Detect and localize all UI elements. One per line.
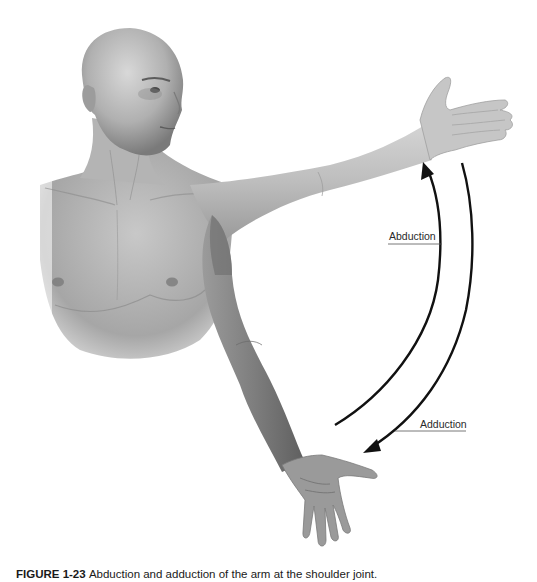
- figure-number: FIGURE 1-23: [16, 568, 86, 580]
- figure-caption-text: Abduction and adduction of the arm at th…: [89, 568, 377, 580]
- abduction-label: Abduction: [389, 230, 436, 242]
- abduction-arrow: [335, 162, 440, 425]
- abduction-arrowhead-icon: [421, 162, 434, 180]
- anatomy-illustration: [0, 0, 537, 582]
- adduction-label: Adduction: [420, 418, 467, 430]
- figure-caption: FIGURE 1-23 Abduction and adduction of t…: [16, 568, 377, 580]
- adducted-arm: [202, 215, 377, 546]
- abducted-arm: [190, 77, 512, 240]
- adduction-arrow: [363, 163, 472, 453]
